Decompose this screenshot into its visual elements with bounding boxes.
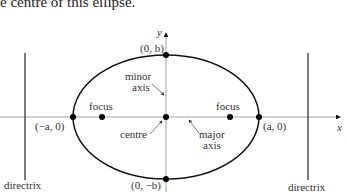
label-centre: centre [120, 128, 147, 140]
label-bottom: (0, −b) [131, 179, 161, 192]
point-left [70, 114, 76, 120]
label-top: (0, b) [140, 42, 164, 55]
label-directrix-right: directrix [288, 181, 326, 192]
label-focus-left: focus [89, 100, 113, 112]
label-major-line2: axis [203, 139, 221, 151]
x-axis-label: x [336, 121, 342, 133]
point-right [256, 114, 262, 120]
centre-point [163, 114, 169, 120]
point-bottom [163, 176, 169, 182]
point-top [163, 52, 169, 58]
label-left: (−a, 0) [35, 120, 65, 133]
label-focus-right: focus [216, 100, 240, 112]
ellipse-diagram: y x (0, b) (0, −b) (−a, 0) (a, 0) focus … [0, 0, 348, 192]
centre-pointer [150, 121, 162, 134]
major-axis-pointer [189, 120, 199, 133]
y-axis-label: y [156, 26, 162, 38]
label-directrix-left: directrix [4, 179, 42, 191]
focus-left-point [99, 114, 105, 120]
minor-axis-pointer [152, 84, 164, 95]
focus-right-point [227, 114, 233, 120]
label-minor-line2: axis [132, 81, 150, 93]
label-right: (a, 0) [263, 120, 287, 133]
